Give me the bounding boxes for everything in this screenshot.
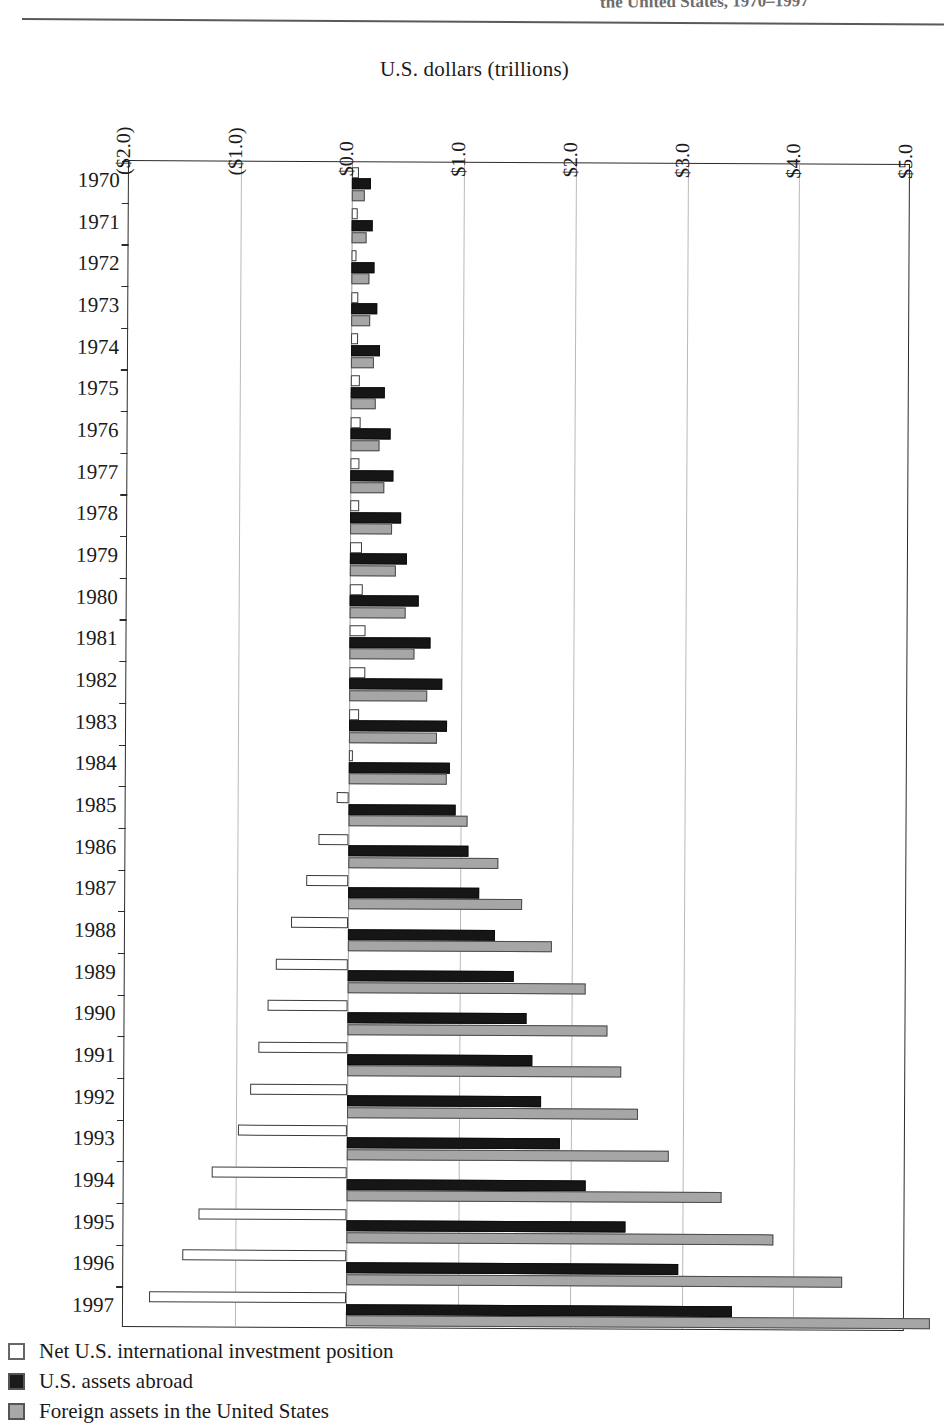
legend-swatch-net-icon xyxy=(8,1343,25,1360)
legend-label-assets: U.S. assets abroad xyxy=(39,1369,193,1394)
legend-item-assets: U.S. assets abroad xyxy=(8,1366,394,1396)
y-axis-year-label: 1983 xyxy=(31,711,117,732)
bar-us-assets-abroad xyxy=(349,887,480,899)
y-axis-year-label: 1992 xyxy=(29,1086,115,1107)
bar-foreign-assets-in-us xyxy=(349,774,446,786)
y-axis-year-label: 1989 xyxy=(30,961,116,982)
bar-net-investment-position xyxy=(350,542,361,553)
legend-label-foreign: Foreign assets in the United States xyxy=(39,1399,329,1424)
x-axis-tick-label: $4.0 xyxy=(782,88,805,178)
bar-net-investment-position xyxy=(268,1000,348,1011)
y-axis-tick-mark xyxy=(120,453,127,454)
bar-net-investment-position xyxy=(250,1083,347,1095)
x-axis-tick-label: ($1.0) xyxy=(224,86,247,176)
bar-net-investment-position xyxy=(258,1042,347,1053)
bar-net-investment-position xyxy=(276,958,349,969)
y-axis-tick-mark xyxy=(118,869,125,870)
x-axis-tick-label: $2.0 xyxy=(559,87,582,177)
bar-us-assets-abroad xyxy=(347,1262,679,1275)
y-axis-tick-mark xyxy=(116,1286,123,1287)
bar-foreign-assets-in-us xyxy=(351,482,385,493)
bar-foreign-assets-in-us xyxy=(349,815,467,827)
y-axis-tick-mark xyxy=(117,1161,124,1162)
y-axis-year-label: 1997 xyxy=(28,1295,114,1316)
y-axis-year-label: 1975 xyxy=(33,378,119,399)
y-axis-year-label: 1971 xyxy=(34,211,120,232)
bar-foreign-assets-in-us xyxy=(351,357,373,368)
y-axis-tick-mark xyxy=(118,995,125,996)
bar-foreign-assets-in-us xyxy=(348,940,551,952)
y-axis-year-label: 1987 xyxy=(30,878,116,899)
bar-us-assets-abroad xyxy=(352,220,372,231)
y-axis-tick-mark xyxy=(118,911,125,912)
bar-foreign-assets-in-us xyxy=(351,440,380,451)
y-axis-year-label: 1973 xyxy=(33,294,119,315)
bar-foreign-assets-in-us xyxy=(348,1065,622,1077)
bar-foreign-assets-in-us xyxy=(352,273,370,284)
y-axis-year-label: 1986 xyxy=(30,836,116,857)
bar-us-assets-abroad xyxy=(348,1012,527,1024)
bar-net-investment-position xyxy=(351,459,360,470)
y-axis-year-label: 1995 xyxy=(28,1211,114,1232)
bar-foreign-assets-in-us xyxy=(350,565,396,576)
bar-foreign-assets-in-us xyxy=(347,1232,774,1245)
bar-foreign-assets-in-us xyxy=(346,1315,929,1329)
bar-net-investment-position xyxy=(337,792,349,803)
bar-net-investment-position xyxy=(349,750,352,761)
bar-us-assets-abroad xyxy=(351,512,401,523)
bar-us-assets-abroad xyxy=(348,1054,532,1066)
y-axis-tick-mark xyxy=(120,536,127,537)
bar-foreign-assets-in-us xyxy=(352,190,364,201)
bar-net-investment-position xyxy=(350,667,366,678)
y-axis-tick-mark xyxy=(121,328,128,329)
gridline xyxy=(793,165,800,1330)
y-axis-year-label: 1982 xyxy=(31,669,117,690)
y-axis-year-label: 1993 xyxy=(29,1128,115,1149)
y-axis-tick-mark xyxy=(119,744,126,745)
legend-swatch-assets-icon xyxy=(8,1373,25,1390)
y-axis-tick-mark xyxy=(122,244,129,245)
bar-net-investment-position xyxy=(352,209,358,220)
bar-foreign-assets-in-us xyxy=(350,690,427,701)
bar-net-investment-position xyxy=(351,375,360,386)
y-axis-year-label: 1976 xyxy=(33,419,119,440)
y-axis-tick-mark xyxy=(119,786,126,787)
gridline xyxy=(681,164,688,1329)
y-axis-tick-mark xyxy=(118,953,125,954)
bar-net-investment-position xyxy=(198,1208,347,1220)
y-axis-year-label: 1981 xyxy=(31,628,117,649)
legend-item-net: Net U.S. international investment positi… xyxy=(8,1336,394,1366)
bar-us-assets-abroad xyxy=(351,387,385,398)
bar-us-assets-abroad xyxy=(348,929,494,941)
bar-net-investment-position xyxy=(350,625,366,636)
bar-net-investment-position xyxy=(238,1125,348,1137)
bar-net-investment-position xyxy=(352,250,357,261)
y-axis-tick-mark xyxy=(118,828,125,829)
bar-foreign-assets-in-us xyxy=(347,1190,721,1203)
bar-us-assets-abroad xyxy=(348,970,513,982)
y-axis-tick-mark xyxy=(120,619,127,620)
bar-us-assets-abroad xyxy=(350,637,430,648)
bar-foreign-assets-in-us xyxy=(347,1274,843,1288)
bar-foreign-assets-in-us xyxy=(348,899,521,911)
y-axis-tick-mark xyxy=(120,494,127,495)
bar-us-assets-abroad xyxy=(349,845,469,857)
bar-net-investment-position xyxy=(182,1250,346,1262)
gridline xyxy=(235,162,242,1327)
bar-us-assets-abroad xyxy=(347,1137,559,1149)
chart-legend: Net U.S. international investment positi… xyxy=(8,1336,394,1426)
bar-foreign-assets-in-us xyxy=(352,315,371,326)
y-axis-tick-mark xyxy=(116,1245,123,1246)
y-axis-year-label: 1977 xyxy=(32,461,118,482)
bar-us-assets-abroad xyxy=(349,762,450,774)
y-axis-tick-mark xyxy=(117,1203,124,1204)
bar-us-assets-abroad xyxy=(350,554,407,565)
bar-net-investment-position xyxy=(291,917,348,928)
bar-foreign-assets-in-us xyxy=(351,398,376,409)
bar-foreign-assets-in-us xyxy=(350,607,406,618)
y-axis-year-label: 1994 xyxy=(29,1170,115,1191)
bar-foreign-assets-in-us xyxy=(347,1149,669,1162)
y-axis-year-label: 1979 xyxy=(32,544,118,565)
y-axis-year-label: 1991 xyxy=(29,1045,115,1066)
y-axis-tick-mark xyxy=(119,703,126,704)
